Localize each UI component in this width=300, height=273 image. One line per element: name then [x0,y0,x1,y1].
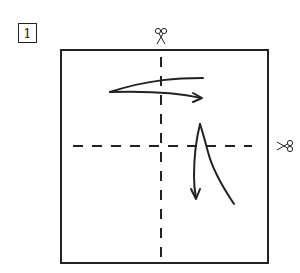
fold-right-arrow [110,78,203,102]
folding-diagram [0,0,300,273]
scissors-icon [277,140,293,151]
fold-down-arrow [191,124,234,204]
paper-square [61,50,268,263]
scissors-icon [155,28,166,44]
